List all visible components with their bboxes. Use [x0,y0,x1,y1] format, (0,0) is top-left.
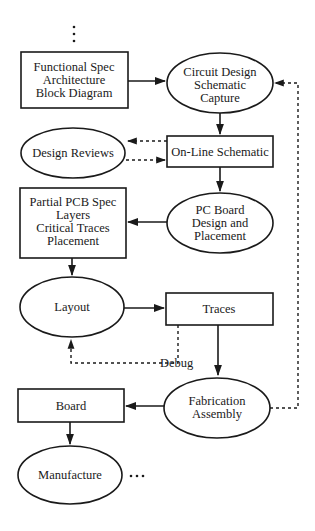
node-circuit-design: Circuit Design Schematic Capture [167,53,273,113]
node-partial-pcb-spec: Partial PCB Spec Layers Critical Traces … [20,188,126,258]
node-partial-pcb-spec-line-3: Critical Traces [36,221,109,235]
node-layout-line-1: Layout [54,300,90,314]
node-fabrication-line-1: Fabrication [189,394,247,408]
flowchart: Functional Spec Architecture Block Diagr… [0,0,315,531]
node-traces-line-1: Traces [203,302,236,316]
node-functional-spec-line-2: Architecture [43,73,106,87]
node-board-line-1: Board [56,399,87,413]
edge-label-debug: Debug [160,356,194,370]
node-pc-board-design-line-1: PC Board [196,203,246,217]
node-pc-board-design: PC Board Design and Placement [167,193,273,253]
node-functional-spec: Functional Spec Architecture Block Diagr… [21,52,128,108]
node-circuit-design-line-2: Schematic [194,78,247,92]
node-pc-board-design-line-2: Design and [192,216,249,230]
node-traces: Traces [166,293,273,325]
node-partial-pcb-spec-line-1: Partial PCB Spec [30,195,117,209]
node-board: Board [18,389,124,422]
node-partial-pcb-spec-line-2: Layers [56,208,90,222]
node-layout: Layout [20,277,124,337]
node-online-schematic-line-1: On-Line Schematic [171,145,269,159]
node-design-reviews-line-1: Design Reviews [32,146,114,160]
node-fabrication-assembly: Fabrication Assembly [164,378,270,438]
node-functional-spec-line-3: Block Diagram [36,86,113,100]
node-partial-pcb-spec-line-4: Placement [47,234,100,248]
node-functional-spec-line-1: Functional Spec [34,60,115,74]
node-design-reviews: Design Reviews [21,128,125,178]
node-manufacture-line-1: Manufacture [38,468,102,482]
top-ellipsis-icon [73,26,76,43]
node-online-schematic: On-Line Schematic [167,136,273,167]
node-circuit-design-line-1: Circuit Design [183,65,257,79]
node-manufacture: Manufacture [18,446,122,504]
edge-fabrication-to-circuit [270,83,298,408]
node-circuit-design-line-3: Capture [200,91,240,105]
node-fabrication-line-2: Assembly [192,407,243,421]
flowchart-canvas: Functional Spec Architecture Block Diagr… [0,0,315,531]
end-ellipsis-icon [130,475,145,478]
node-pc-board-design-line-3: Placement [194,229,247,243]
